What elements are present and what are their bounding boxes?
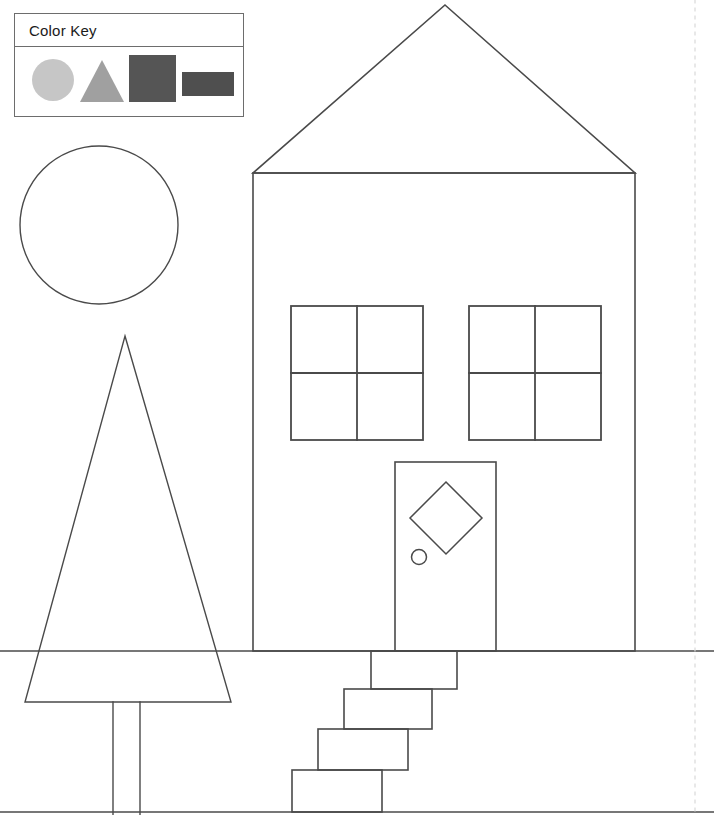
house-body-rectangle[interactable] (253, 173, 635, 651)
window-left[interactable] (291, 306, 423, 440)
step-4-rectangle[interactable] (292, 770, 382, 812)
circle-swatch-icon[interactable] (32, 59, 74, 101)
door-diamond-window[interactable] (410, 482, 482, 554)
tree-foliage-triangle[interactable] (25, 336, 231, 702)
door[interactable] (395, 462, 496, 651)
steps (292, 651, 457, 812)
house-roof-triangle[interactable] (253, 5, 635, 173)
door-knob-circle[interactable] (412, 550, 427, 565)
square-swatch-icon[interactable] (129, 55, 176, 102)
sun-circle[interactable] (20, 146, 178, 304)
window-right[interactable] (469, 306, 601, 440)
tree-trunk-rectangle[interactable] (113, 702, 140, 815)
worksheet-page: Color Key (0, 0, 714, 815)
tree (25, 336, 231, 815)
color-key-swatch-row (15, 47, 243, 116)
step-1-rectangle[interactable] (371, 651, 457, 689)
color-key-title: Color Key (29, 23, 97, 38)
door-rectangle[interactable] (395, 462, 496, 651)
color-key-header: Color Key (15, 14, 243, 47)
color-key-panel: Color Key (14, 13, 244, 117)
house (253, 5, 635, 812)
step-3-rectangle[interactable] (318, 729, 408, 770)
rectangle-swatch-icon[interactable] (182, 72, 234, 96)
step-2-rectangle[interactable] (344, 689, 432, 729)
triangle-swatch-icon[interactable] (80, 60, 124, 102)
worksheet-drawing-canvas (0, 0, 714, 815)
